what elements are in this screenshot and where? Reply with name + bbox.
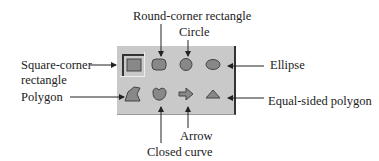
round-corner-rectangle-tool[interactable] xyxy=(147,52,171,76)
label-closed-curve: Closed curve xyxy=(147,145,213,159)
shape-tool-palette xyxy=(117,46,236,115)
label-ellipse: Ellipse xyxy=(270,58,305,72)
label-arrow: Arrow xyxy=(180,129,213,143)
polygon-icon xyxy=(120,82,144,106)
label-round-corner-rectangle: Round-corner rectangle xyxy=(133,9,251,23)
equal-sided-polygon-tool[interactable] xyxy=(201,82,225,106)
closed-curve-tool[interactable] xyxy=(147,82,171,106)
label-square-corner-rectangle-line1: Square-corner xyxy=(21,58,92,72)
circle-tool[interactable] xyxy=(174,52,198,76)
rounded-rectangle-icon xyxy=(147,52,171,76)
triangle-icon xyxy=(201,82,225,106)
label-circle: Circle xyxy=(179,25,210,39)
selection-edge xyxy=(122,54,144,56)
label-polygon: Polygon xyxy=(21,90,63,104)
arrow-icon xyxy=(174,82,198,106)
arrow-tool[interactable] xyxy=(174,82,198,106)
square-corner-rectangle-tool[interactable] xyxy=(120,52,145,77)
circle-icon xyxy=(174,52,198,76)
ellipse-tool[interactable] xyxy=(201,52,225,76)
label-square-corner-rectangle-line2: rectangle xyxy=(21,73,67,87)
label-equal-sided-polygon: Equal-sided polygon xyxy=(268,94,372,108)
selection-edge xyxy=(122,54,124,76)
polygon-tool[interactable] xyxy=(120,82,144,106)
ellipse-icon xyxy=(201,52,225,76)
closed-curve-icon xyxy=(147,82,171,106)
